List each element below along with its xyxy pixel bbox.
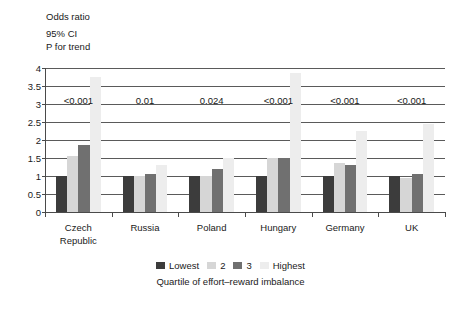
y-tick-label: 3.5 — [11, 81, 41, 92]
legend-label: 2 — [220, 260, 225, 271]
y-tick-label: 4 — [11, 63, 41, 74]
x-tick-mark — [178, 212, 179, 217]
chart-figure: Odds ratio 95% CI P for trend 00.511.522… — [0, 0, 461, 310]
bar-groups — [45, 68, 445, 212]
header-note-ci: 95% CI — [46, 27, 90, 41]
legend-item: 2 — [207, 260, 225, 271]
bar-group — [56, 68, 101, 212]
bar — [123, 176, 134, 212]
category-label: Hungary — [245, 222, 312, 235]
bar — [78, 145, 89, 212]
category-label: UK — [378, 222, 445, 235]
legend-item: Highest — [260, 260, 305, 271]
bar-group — [189, 68, 234, 212]
chart-legend: Lowest23Highest — [0, 260, 461, 271]
bar — [189, 176, 200, 212]
bar — [212, 169, 223, 212]
legend-label: Lowest — [169, 260, 199, 271]
p-value-label: 0.024 — [178, 95, 245, 106]
category-label-line: Republic — [45, 235, 112, 248]
bar — [400, 178, 411, 212]
y-tick-label: 1.5 — [11, 153, 41, 164]
chart-header-note: Odds ratio 95% CI P for trend — [46, 10, 90, 54]
bar-group — [389, 68, 434, 212]
x-tick-mark — [112, 212, 113, 217]
x-axis-caption: Quartile of effort–reward imbalance — [0, 276, 461, 287]
bar — [356, 131, 367, 212]
bar — [267, 158, 278, 212]
y-tick-label: 2 — [11, 135, 41, 146]
legend-swatch-icon — [156, 262, 165, 269]
legend-swatch-icon — [233, 262, 242, 269]
bar — [67, 156, 78, 212]
y-tick-label: 2.5 — [11, 117, 41, 128]
y-tick-label: 3 — [11, 99, 41, 110]
bar-group — [123, 68, 168, 212]
bar — [223, 158, 234, 212]
bar-group — [256, 68, 301, 212]
x-tick-mark — [312, 212, 313, 217]
p-value-label: <0.001 — [245, 95, 312, 106]
x-tick-mark — [378, 212, 379, 217]
p-value-label: 0.01 — [112, 95, 179, 106]
category-label-line: Poland — [178, 222, 245, 235]
x-tick-mark — [45, 212, 46, 217]
category-label: CzechRepublic — [45, 222, 112, 247]
p-value-label: <0.001 — [312, 95, 379, 106]
legend-swatch-icon — [207, 262, 216, 269]
x-tick-mark — [245, 212, 246, 217]
legend-item: Lowest — [156, 260, 199, 271]
bar — [200, 176, 211, 212]
p-value-label: <0.001 — [45, 95, 112, 106]
p-value-label: <0.001 — [378, 95, 445, 106]
category-label-line: Germany — [312, 222, 379, 235]
category-label-line: Hungary — [245, 222, 312, 235]
header-note-odds-ratio: Odds ratio — [46, 10, 90, 24]
bar — [412, 174, 423, 212]
category-label-line: UK — [378, 222, 445, 235]
bar — [134, 176, 145, 212]
y-tick-label: 0 — [11, 207, 41, 218]
bar — [334, 163, 345, 212]
bar — [145, 174, 156, 212]
category-label: Germany — [312, 222, 379, 235]
category-label-line: Czech — [45, 222, 112, 235]
category-label: Poland — [178, 222, 245, 235]
plot-area: 00.511.522.533.54 <0.0010.010.024<0.001<… — [45, 68, 445, 212]
legend-swatch-icon — [260, 262, 269, 269]
bar — [389, 176, 400, 212]
bar — [256, 176, 267, 212]
bar — [345, 165, 356, 212]
bar-group — [323, 68, 368, 212]
category-label-line: Russia — [112, 222, 179, 235]
category-label: Russia — [112, 222, 179, 235]
x-tick-mark — [445, 212, 446, 217]
bar — [278, 158, 289, 212]
legend-label: 3 — [246, 260, 251, 271]
header-note-p-for-trend: P for trend — [46, 40, 90, 54]
bar — [423, 124, 434, 212]
y-tick-label: 0.5 — [11, 189, 41, 200]
legend-item: 3 — [233, 260, 251, 271]
y-tick-label: 1 — [11, 171, 41, 182]
bar — [323, 176, 334, 212]
legend-label: Highest — [273, 260, 305, 271]
bar — [56, 176, 67, 212]
bar — [156, 165, 167, 212]
